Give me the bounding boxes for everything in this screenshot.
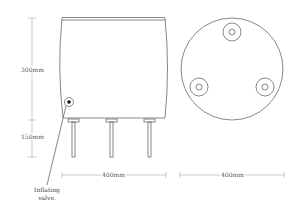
height-body-label: 300mm [20,66,45,73]
side-width-label: 400mm [101,171,126,178]
valve-label: Inflating valve. [30,186,64,202]
top-view [181,18,283,120]
valve-label-line2: valve. [30,194,64,202]
height-legs-label: 150mm [20,133,45,140]
side-view [47,18,168,186]
width-dimensions [62,172,284,178]
top-width-label: 400mm [220,171,245,178]
technical-drawing [0,0,293,213]
valve-label-line1: Inflating [30,186,64,194]
